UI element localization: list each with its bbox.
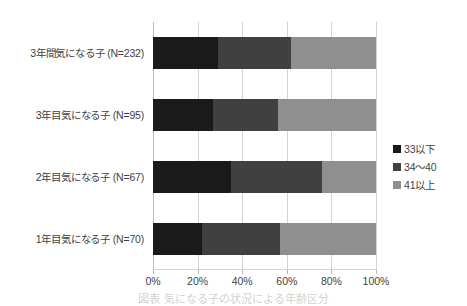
legend-swatch-icon xyxy=(393,181,401,189)
axis-tick-mark xyxy=(376,270,377,274)
axis-tick-mark xyxy=(153,270,154,274)
category-label: 1年目気になる子 (N=70) xyxy=(0,233,144,245)
bar-segment xyxy=(322,161,376,193)
bar-segment xyxy=(153,99,213,131)
legend-item[interactable]: 33以下 xyxy=(393,141,467,157)
axis-tick-label: 0% xyxy=(145,275,160,288)
legend-swatch-icon xyxy=(393,163,401,171)
bar-segment xyxy=(231,161,322,193)
bar-segment xyxy=(218,37,292,69)
axis-tick-label: 40% xyxy=(232,275,253,288)
legend: 33以下34～4041以上 xyxy=(393,141,467,195)
category-label: 2年目気になる子 (N=67) xyxy=(0,171,144,183)
legend-item[interactable]: 41以上 xyxy=(393,177,467,193)
category-label: 3年目気になる子 (N=95) xyxy=(0,109,144,121)
gridline-100 xyxy=(376,22,377,270)
bar-row xyxy=(153,99,376,131)
legend-swatch-icon xyxy=(393,145,401,153)
category-label: 3年間気になる子 (N=232) xyxy=(0,47,144,59)
bar-segment xyxy=(213,99,278,131)
axis-tick-label: 60% xyxy=(276,275,297,288)
bar-row xyxy=(153,37,376,69)
plot-area xyxy=(153,22,376,270)
axis-tick-label: 100% xyxy=(363,275,390,288)
category-axis: 3年間気になる子 (N=232)3年目気になる子 (N=95)2年目気になる子 … xyxy=(0,22,149,270)
bar-series-group xyxy=(153,22,376,270)
legend-item[interactable]: 34～40 xyxy=(393,159,467,175)
axis-tick-mark xyxy=(287,270,288,274)
figure-caption: 図表 気になる子の状況による年齢区分 xyxy=(0,293,467,306)
bar-segment xyxy=(153,161,231,193)
axis-tick-label: 20% xyxy=(187,275,208,288)
axis-tick-label: 80% xyxy=(321,275,342,288)
bar-row xyxy=(153,161,376,193)
bar-segment xyxy=(153,37,218,69)
legend-label: 34～40 xyxy=(404,161,436,173)
bar-segment xyxy=(280,223,376,255)
bar-segment xyxy=(202,223,280,255)
axis-tick-mark xyxy=(198,270,199,274)
legend-label: 33以下 xyxy=(404,143,435,155)
legend-label: 41以上 xyxy=(404,179,435,191)
bar-segment xyxy=(291,37,376,69)
bar-row xyxy=(153,223,376,255)
bar-segment xyxy=(278,99,376,131)
axis-tick-mark xyxy=(331,270,332,274)
bar-segment xyxy=(153,223,202,255)
axis-tick-mark xyxy=(242,270,243,274)
value-axis: 0%20%40%60%80%100% xyxy=(153,270,376,292)
